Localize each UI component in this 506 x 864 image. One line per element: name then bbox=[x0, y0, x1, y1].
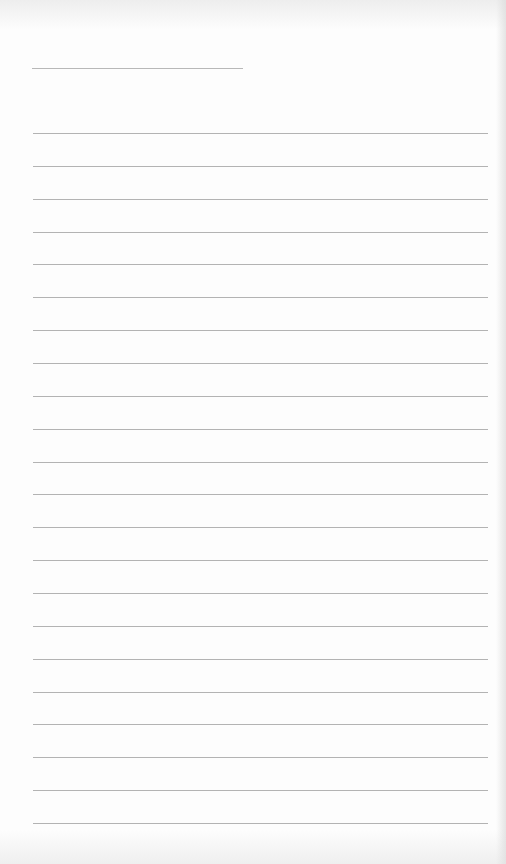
ruled-line bbox=[33, 363, 488, 364]
ruled-line bbox=[33, 297, 488, 298]
ruled-line bbox=[33, 626, 488, 627]
ruled-line bbox=[33, 264, 488, 265]
lined-paper-page bbox=[0, 0, 506, 864]
ruled-line bbox=[33, 692, 488, 693]
ruled-line bbox=[33, 133, 488, 134]
ruled-line bbox=[33, 593, 488, 594]
ruled-line bbox=[33, 232, 488, 233]
ruled-line bbox=[33, 166, 488, 167]
ruled-lines bbox=[0, 0, 506, 864]
ruled-line bbox=[33, 757, 488, 758]
ruled-line bbox=[33, 199, 488, 200]
ruled-line bbox=[33, 790, 488, 791]
ruled-line bbox=[33, 494, 488, 495]
ruled-line bbox=[33, 330, 488, 331]
ruled-line bbox=[33, 396, 488, 397]
ruled-line bbox=[33, 560, 488, 561]
ruled-line bbox=[33, 429, 488, 430]
ruled-line bbox=[33, 659, 488, 660]
ruled-line bbox=[33, 724, 488, 725]
ruled-line bbox=[33, 823, 488, 824]
ruled-line bbox=[33, 462, 488, 463]
ruled-line bbox=[33, 527, 488, 528]
